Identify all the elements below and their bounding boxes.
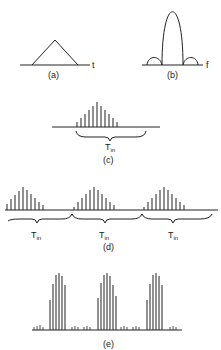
sample-spikes xyxy=(77,102,117,127)
brace-label-d-1: Tin xyxy=(31,230,41,241)
main-lobe-group-3 xyxy=(147,273,162,330)
panel-a xyxy=(20,40,90,65)
panel-label-a: (a) xyxy=(48,70,59,80)
spike-group-3 xyxy=(144,187,184,210)
brace xyxy=(76,131,146,141)
panel-label-c: (c) xyxy=(103,155,114,165)
triangle-pulse xyxy=(32,40,78,65)
side-lobe-left xyxy=(147,58,162,66)
panel-label-e: (e) xyxy=(103,339,114,349)
main-lobe xyxy=(162,12,183,65)
brace-1 xyxy=(8,214,72,223)
brace-3 xyxy=(142,214,212,223)
panel-c xyxy=(52,102,160,141)
panel-label-b: (b) xyxy=(167,70,178,80)
panel-d xyxy=(5,187,218,223)
brace-label-d-2: Tin xyxy=(99,230,109,241)
spike-group-2 xyxy=(74,187,114,210)
axis-label-t: t xyxy=(92,60,95,70)
panel-label-d: (d) xyxy=(103,242,114,252)
brace-2 xyxy=(72,214,142,223)
spike-group-1 xyxy=(7,187,43,210)
brace-label-d-3: Tin xyxy=(168,230,178,241)
axis-label-f: f xyxy=(206,60,209,70)
main-lobe-group-2 xyxy=(98,273,116,330)
side-lobe-right xyxy=(183,58,198,66)
panel-b xyxy=(142,12,203,65)
panel-e xyxy=(32,273,182,330)
diagram-canvas: t (a) f (b) Tin (c) Tin Tin Tin (d) (e) xyxy=(0,0,221,350)
side-lobes xyxy=(34,325,176,330)
main-lobe-group-1 xyxy=(50,273,65,330)
brace-label-c: Tin xyxy=(105,142,115,153)
